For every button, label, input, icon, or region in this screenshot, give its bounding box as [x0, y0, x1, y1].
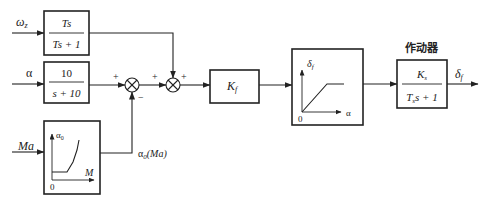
washout-denominator: Ts + 1: [53, 38, 81, 50]
omega-subscript: z: [23, 21, 28, 30]
saturation-x-axis-label: α: [346, 108, 351, 118]
saturation-origin-label: 0: [298, 114, 303, 124]
output-signal: δf: [447, 67, 478, 84]
schedule-block[interactable]: α0 M 0: [44, 121, 100, 194]
mach-input: Ma: [12, 139, 44, 153]
filter-block[interactable]: 10 s + 10: [44, 62, 89, 103]
feedback-arg: (Ma): [147, 148, 168, 160]
sum1-plus-sign: +: [113, 71, 119, 82]
schedule-y-axis-sub: 0: [61, 135, 64, 141]
washout-block[interactable]: Ts Ts + 1: [44, 11, 89, 55]
omega-input: ωz: [12, 15, 44, 33]
sum1-minus-sign: −: [138, 92, 144, 103]
svg-text:ωz: ωz: [16, 15, 28, 30]
feedback-signal-label: α0(Ma): [138, 148, 167, 161]
svg-text:Tss + 1: Tss + 1: [406, 91, 438, 105]
washout-numerator: Ts: [62, 17, 71, 29]
schedule-origin-label: 0: [50, 182, 55, 192]
svg-text:δf: δf: [455, 67, 465, 82]
schedule-x-axis-label: M: [84, 167, 94, 178]
mach-label: Ma: [17, 139, 34, 153]
summing-junction-1: + −: [113, 71, 144, 103]
output-subscript: f: [461, 73, 465, 82]
alpha-input: α: [12, 66, 44, 84]
filter-numerator: 10: [61, 67, 73, 79]
actuator-denominator-post: s + 1: [415, 91, 438, 103]
gain-block[interactable]: Kf: [210, 70, 259, 103]
actuator-title: 作动器: [405, 41, 439, 55]
actuator-block[interactable]: 作动器 Ks Tss + 1: [397, 41, 447, 108]
block-diagram: ωz Ts Ts + 1 α 10 s + 10 + − +: [0, 0, 486, 206]
alpha-label: α: [26, 66, 33, 80]
sum2-left-plus-sign: +: [152, 71, 158, 82]
filter-denominator: s + 10: [52, 87, 81, 99]
omega-label: ω: [16, 15, 24, 29]
sum2-right-plus-sign: +: [181, 71, 187, 82]
summing-junction-2: + +: [152, 71, 187, 92]
saturation-block[interactable]: δf α 0: [292, 49, 363, 125]
actuator-numerator-sub: s: [424, 74, 427, 82]
